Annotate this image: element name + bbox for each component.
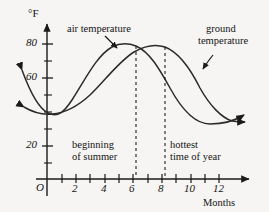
air-temperature-leader-arrow: [105, 36, 117, 48]
ground-temperature-label-line2: temperature: [198, 35, 248, 46]
temperature-curves-figure: °F 80 60 20 O 2 4 6 8 10 12 Months air t…: [0, 0, 269, 212]
x-tick-label-8: 8: [158, 183, 164, 195]
origin-label: O: [36, 182, 44, 194]
y-axis-unit-label: °F: [28, 8, 39, 20]
x-tick-label-10: 10: [184, 183, 195, 195]
hottest-time-of-year-label-line1: hottest: [170, 139, 198, 150]
y-tick-label-20: 20: [26, 139, 37, 151]
ground-temperature-label-line1: ground: [206, 23, 236, 34]
x-tick-label-4: 4: [101, 183, 107, 195]
air-temperature-label: air temperature: [67, 23, 131, 34]
y-tick-label-80: 80: [26, 37, 37, 49]
x-tick-label-12: 12: [213, 183, 224, 195]
x-tick-label-6: 6: [129, 183, 135, 195]
beginning-of-summer-label-line1: beginning: [72, 139, 114, 150]
ground-temperature-leader-arrow: [203, 55, 213, 69]
x-axis-name-label: Months: [203, 197, 235, 208]
x-tick-label-2: 2: [72, 183, 78, 195]
y-tick-label-60: 60: [26, 71, 37, 83]
hottest-time-of-year-label-line2: time of year: [170, 151, 221, 162]
air-temperature-curve: [22, 44, 244, 124]
beginning-of-summer-label-line2: of summer: [72, 151, 117, 162]
